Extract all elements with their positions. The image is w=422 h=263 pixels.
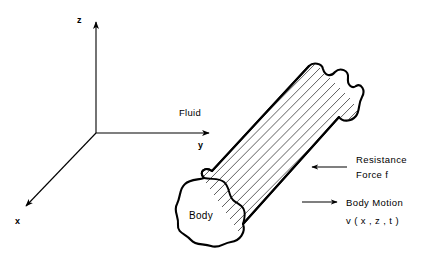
- resistance-force-annotation: Resistance Force f: [312, 154, 407, 180]
- body-motion-annotation: Body Motion v ( x , z , t ): [302, 197, 403, 226]
- y-axis-label: y: [198, 140, 203, 150]
- figure-container: z y x Fluid: [0, 0, 422, 263]
- z-axis-label: z: [77, 15, 82, 25]
- resistance-force-line2: Force f: [356, 169, 388, 180]
- body-motion-line2: v ( x , z , t ): [346, 215, 399, 226]
- fluid-label: Fluid: [179, 107, 201, 118]
- body-motion-line1: Body Motion: [346, 197, 403, 208]
- resistance-force-line1: Resistance: [356, 154, 407, 165]
- body-label: Body: [189, 210, 213, 221]
- slender-body-fluid-diagram: z y x Fluid: [0, 0, 422, 263]
- x-axis-label: x: [15, 216, 20, 226]
- slender-body-shape: Body: [176, 60, 364, 247]
- x-axis-line: [26, 133, 96, 206]
